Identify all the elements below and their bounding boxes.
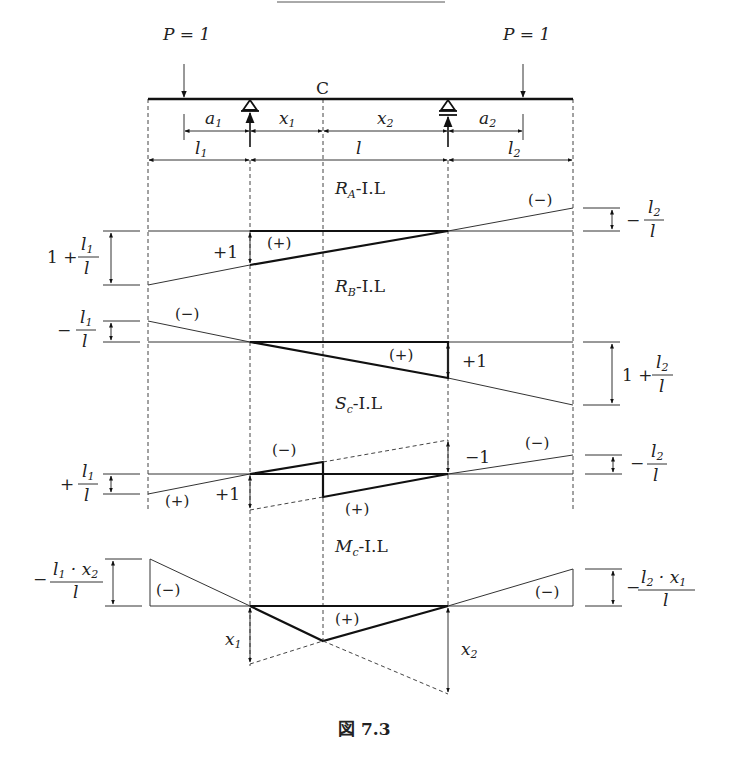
svg-text:l1: l1 xyxy=(80,307,92,329)
ra-mid-value: +1 xyxy=(213,242,238,262)
load-label-left: P = 1 xyxy=(162,24,210,44)
ra-title: RA-I.L xyxy=(334,178,385,201)
svg-text:l: l xyxy=(84,485,89,505)
svg-text:l1: l1 xyxy=(82,461,94,483)
dim-l2: l2 xyxy=(508,138,520,160)
svg-text:l: l xyxy=(73,582,78,602)
svg-text:l: l xyxy=(663,590,668,610)
figure-caption: 図 7.3 xyxy=(338,719,391,739)
beam-system: P = 1 P = 1 C a1 x1 x2 a2 xyxy=(148,24,573,160)
mc-influence-line: Mc-I.L x1 x2 (−) (+) (−) − l1 · x2 l − l… xyxy=(33,536,695,694)
ra-sign-neg: (−) xyxy=(528,191,552,209)
rb-sign-pos: (+) xyxy=(389,346,413,364)
point-c-label: C xyxy=(316,78,329,98)
mc-right-value: − xyxy=(626,577,640,597)
rb-right-value: 1 + xyxy=(622,365,652,385)
svg-text:l: l xyxy=(650,221,655,241)
ra-right-value: − xyxy=(626,210,640,230)
sc-left-value: + xyxy=(60,474,74,494)
mc-sign-pos: (+) xyxy=(335,610,359,628)
rb-influence-line: RB-I.L +1 (+) (−) − l1 l 1 + l2 l xyxy=(57,276,673,405)
sc-right-value: − xyxy=(630,453,644,473)
sc-mid-neg-value: −1 xyxy=(465,447,490,467)
svg-text:l2 · x1: l2 · x1 xyxy=(641,567,686,589)
sc-influence-line: Sc-I.L +1 −1 (+) (−) (+) (−) + l1 l − l2… xyxy=(60,393,667,518)
sc-sign-pos-left: (+) xyxy=(165,492,189,510)
svg-text:l2: l2 xyxy=(656,352,668,374)
svg-text:l: l xyxy=(84,258,89,278)
sc-sign-pos-mid: (+) xyxy=(345,500,369,518)
ra-left-value: 1 + xyxy=(47,247,77,267)
dim-l1: l1 xyxy=(195,138,207,160)
svg-text:l: l xyxy=(659,376,664,396)
load-label-right: P = 1 xyxy=(502,24,550,44)
rb-title: RB-I.L xyxy=(334,276,385,299)
dimension-row-top: a1 x1 x2 a2 xyxy=(184,108,523,140)
ra-influence-line: RA-I.L +1 (+) (−) 1 + l1 l − l2 l xyxy=(47,178,664,285)
mc-left-value: − xyxy=(33,569,47,589)
influence-line-figure: P = 1 P = 1 C a1 x1 x2 a2 xyxy=(0,0,730,765)
ra-sign-pos: (+) xyxy=(267,234,291,252)
dim-l: l xyxy=(356,138,361,158)
svg-text:l2: l2 xyxy=(651,441,663,463)
mc-x2-label: x2 xyxy=(461,639,478,661)
rb-left-value: − xyxy=(57,320,71,340)
sc-title: Sc-I.L xyxy=(335,393,382,416)
rb-sign-neg: (−) xyxy=(175,305,199,323)
rb-mid-value: +1 xyxy=(462,351,487,371)
dim-x1: x1 xyxy=(279,108,296,130)
mc-title: Mc-I.L xyxy=(334,536,388,559)
svg-text:l2: l2 xyxy=(648,197,660,219)
sc-mid-pos-value: +1 xyxy=(215,484,240,504)
dimension-row-bottom: l1 l l2 xyxy=(149,138,572,160)
mc-x1-label: x1 xyxy=(225,629,242,651)
mc-sign-neg-left: (−) xyxy=(156,581,180,599)
support-a-icon xyxy=(241,100,259,147)
svg-text:l: l xyxy=(653,465,658,485)
svg-text:l1: l1 xyxy=(81,234,93,256)
mc-sign-neg-right: (−) xyxy=(535,583,559,601)
dim-a2: a2 xyxy=(479,108,496,130)
sc-sign-neg-mid: (−) xyxy=(272,441,296,459)
dim-x2: x2 xyxy=(377,108,394,130)
dim-a1: a1 xyxy=(205,108,222,130)
sc-sign-neg-right: (−) xyxy=(525,434,549,452)
support-b-icon xyxy=(439,100,457,147)
svg-text:l1 · x2: l1 · x2 xyxy=(53,559,98,581)
svg-text:l: l xyxy=(82,331,87,351)
